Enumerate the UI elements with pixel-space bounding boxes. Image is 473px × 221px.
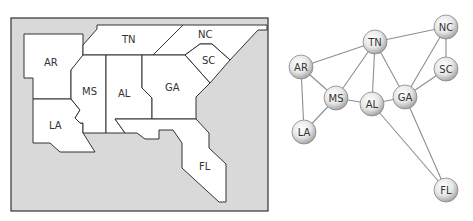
graph-node-label: MS: [329, 93, 344, 104]
graph-node-label: NC: [439, 22, 453, 33]
graph-node-label: LA: [298, 127, 311, 138]
map-label-ga: GA: [165, 82, 180, 93]
edge-al-fl: [372, 104, 446, 190]
graph-node-tn[interactable]: TN: [363, 30, 387, 54]
map-label-tn: TN: [121, 34, 136, 45]
map-label-la: LA: [49, 120, 62, 131]
map-label-ar: AR: [44, 57, 58, 68]
edge-ga-fl: [405, 97, 446, 190]
graph-node-nc[interactable]: NC: [434, 15, 458, 39]
adjacency-graph: TN NC AR SC MS AL GA LA: [289, 15, 458, 202]
graph-node-label: GA: [398, 92, 413, 103]
graph-node-ms[interactable]: MS: [324, 86, 348, 110]
map-label-fl: FL: [199, 161, 211, 172]
graph-node-sc[interactable]: SC: [434, 57, 458, 81]
graph-node-ar[interactable]: AR: [289, 55, 313, 79]
graph-node-label: SC: [439, 64, 452, 75]
graph-node-al[interactable]: AL: [360, 92, 384, 116]
graph-node-label: AR: [294, 62, 308, 73]
graph-node-la[interactable]: LA: [292, 120, 316, 144]
graph-node-ga[interactable]: GA: [393, 85, 417, 109]
graph-node-label: TN: [367, 37, 382, 48]
state-map: AR TN NC SC MS AL GA LA FL: [11, 18, 268, 211]
map-label-sc: SC: [202, 55, 215, 66]
map-label-nc: NC: [198, 29, 212, 40]
graph-node-fl[interactable]: FL: [434, 178, 458, 202]
map-label-al: AL: [118, 88, 131, 99]
map-label-ms: MS: [82, 86, 97, 97]
graph-node-label: FL: [440, 185, 452, 196]
graph-node-label: AL: [366, 99, 379, 110]
